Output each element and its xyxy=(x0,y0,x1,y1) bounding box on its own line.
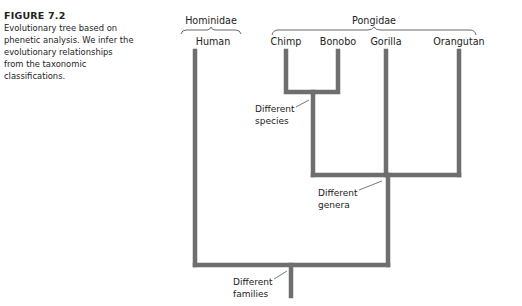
pongidae-brace xyxy=(272,27,476,35)
species-label-bonobo: Bonobo xyxy=(320,36,356,47)
hominidae-brace xyxy=(181,27,241,34)
evolutionary-tree: Hominidae Pongidae Human Chimp Bonobo Go… xyxy=(0,0,522,306)
family-label-hominidae: Hominidae xyxy=(185,15,237,26)
species-label-gorilla: Gorilla xyxy=(370,36,401,47)
family-label-pongidae: Pongidae xyxy=(352,15,396,26)
annotation-families-line1: Different xyxy=(233,277,273,287)
annotation-genera-line2: genera xyxy=(318,200,350,210)
species-label-human: Human xyxy=(196,36,231,47)
annotation-species-line1: Different xyxy=(255,104,295,114)
annotation-genera-line1: Different xyxy=(318,188,358,198)
annotation-families-line2: families xyxy=(233,289,268,299)
annotation-species-line2: species xyxy=(255,116,289,126)
tree-branches xyxy=(195,51,459,296)
leader-genera xyxy=(359,181,382,190)
species-label-orangutan: Orangutan xyxy=(433,36,484,47)
branch-chimp-bonobo xyxy=(286,51,338,92)
leader-species xyxy=(296,100,309,107)
leader-families xyxy=(274,271,287,279)
species-label-chimp: Chimp xyxy=(271,36,302,47)
